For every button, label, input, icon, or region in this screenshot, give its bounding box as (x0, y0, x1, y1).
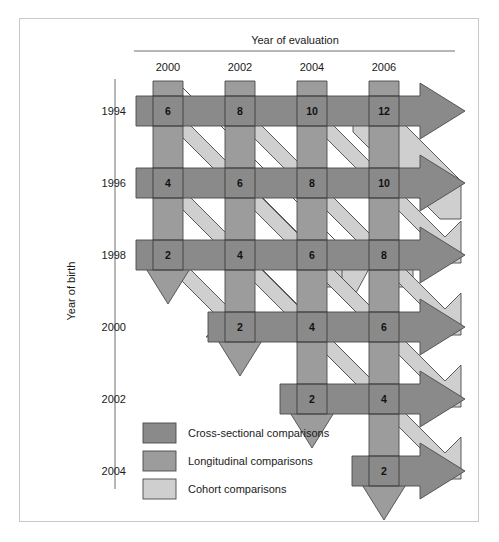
y-tick-labels: 1994 1996 1998 2000 2002 2004 (102, 105, 126, 477)
cell-value: 4 (381, 393, 387, 405)
x-tick-label: 2004 (300, 61, 324, 73)
cell-value: 6 (309, 249, 315, 261)
cohort-sequential-diagram: 6 8 10 12 4 6 8 10 (20, 19, 478, 521)
x-axis-title: Year of evaluation (251, 34, 339, 46)
cell-value: 2 (381, 465, 387, 477)
y-tick-label: 2004 (102, 465, 126, 477)
cell-value: 4 (165, 177, 171, 189)
longitudinal-swatch (143, 451, 176, 471)
cell-value: 8 (381, 249, 387, 261)
cell-value: 6 (381, 321, 387, 333)
y-tick-label: 1994 (102, 105, 126, 117)
y-axis-title: Year of birth (65, 262, 77, 321)
legend-label: Longitudinal comparisons (188, 455, 313, 467)
y-tick-label: 1998 (102, 249, 126, 261)
cell-value: 2 (165, 249, 171, 261)
y-tick-label: 1996 (102, 177, 126, 189)
y-tick-label: 2002 (102, 393, 126, 405)
x-tick-labels: 2000 2002 2004 2006 (156, 61, 396, 73)
x-tick-label: 2006 (372, 61, 396, 73)
cohort-swatch (143, 479, 176, 499)
cell-value: 2 (309, 393, 315, 405)
cell-value: 10 (306, 105, 318, 117)
cell-value: 6 (165, 105, 171, 117)
cell-value: 8 (309, 177, 315, 189)
cell-value: 8 (237, 105, 243, 117)
cross-sectional-swatch (143, 423, 176, 443)
figure-page: 6 8 10 12 4 6 8 10 (0, 0, 499, 542)
y-tick-label: 2000 (102, 321, 126, 333)
cell-value: 10 (378, 177, 390, 189)
cell-value: 4 (309, 321, 315, 333)
legend: Cross-sectional comparisons Longitudinal… (143, 423, 330, 499)
cell-value: 12 (378, 105, 390, 117)
figure-frame: 6 8 10 12 4 6 8 10 (19, 18, 479, 522)
cell-value: 6 (237, 177, 243, 189)
x-tick-label: 2000 (156, 61, 180, 73)
cell-value: 2 (237, 321, 243, 333)
x-tick-label: 2002 (228, 61, 252, 73)
cell-value: 4 (237, 249, 243, 261)
legend-label: Cross-sectional comparisons (188, 427, 330, 439)
legend-label: Cohort comparisons (188, 483, 287, 495)
